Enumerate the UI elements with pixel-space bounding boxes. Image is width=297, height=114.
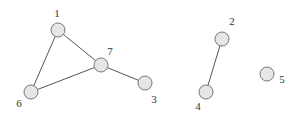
node-label-3: 3: [151, 93, 157, 105]
edge-2-4: [206, 39, 222, 92]
node-5: [260, 67, 274, 81]
node-1: [51, 23, 65, 37]
node-label-1: 1: [54, 7, 60, 19]
edge-1-7: [58, 30, 101, 65]
node-7: [94, 58, 108, 72]
edges-layer: [31, 30, 222, 92]
node-label-6: 6: [16, 97, 22, 109]
node-3: [138, 76, 152, 90]
node-6: [24, 85, 38, 99]
graph-diagram: 1234567: [0, 0, 297, 114]
node-label-7: 7: [107, 45, 113, 57]
nodes-layer: [24, 23, 274, 99]
node-2: [215, 32, 229, 46]
node-label-2: 2: [229, 15, 235, 27]
node-4: [199, 85, 213, 99]
node-label-5: 5: [279, 73, 285, 85]
node-label-4: 4: [195, 100, 201, 112]
